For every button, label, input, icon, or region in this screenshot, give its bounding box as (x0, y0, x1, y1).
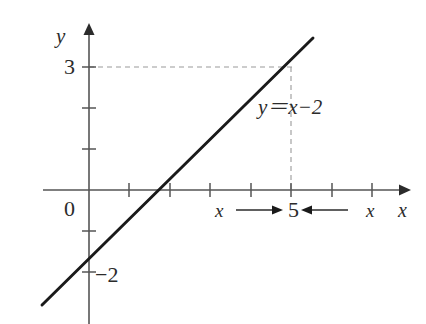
y-axis-arrowhead (84, 23, 95, 35)
graph-figure: y x 3 0 −2 y＝x−2 x 5 x (0, 0, 426, 324)
x-axis-label: x (398, 200, 407, 220)
coordinate-plane-svg (0, 0, 426, 324)
y-tick-label-3: 3 (64, 56, 75, 78)
annotation-value-5: 5 (288, 199, 299, 221)
origin-label: 0 (64, 198, 75, 220)
annotation-x-left: x (215, 201, 223, 220)
y-axis-label: y (56, 26, 65, 47)
equation-label: y＝x−2 (258, 97, 322, 118)
x-converge-annotation: x 5 x (215, 198, 395, 222)
annotation-x-right: x (366, 201, 374, 220)
line-y-equals-x-minus-2 (42, 38, 313, 305)
guide-lines (89, 67, 292, 190)
y-intercept-label: −2 (95, 264, 118, 286)
x-axis-arrowhead (399, 185, 411, 196)
